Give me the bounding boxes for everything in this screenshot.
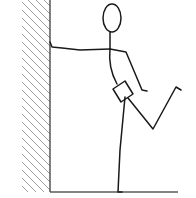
hip-box <box>113 81 133 102</box>
stick-figure <box>50 4 181 192</box>
stretch-illustration <box>0 0 196 198</box>
head <box>103 4 121 32</box>
leg-standing <box>118 97 125 192</box>
torso <box>110 49 117 84</box>
leg-raised <box>128 87 181 129</box>
arm-right <box>110 49 147 91</box>
wall-hatching <box>22 0 52 198</box>
arm-left <box>50 42 110 50</box>
diagram-canvas <box>0 0 196 198</box>
